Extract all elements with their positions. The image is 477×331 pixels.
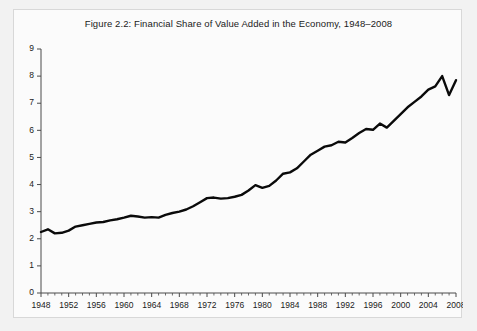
series-line-financial-share	[41, 76, 456, 233]
x-tick-label: 1992	[336, 300, 355, 310]
x-tick-label: 1996	[364, 300, 383, 310]
y-tick-label: 4	[29, 179, 34, 189]
x-tick-label: 1972	[198, 300, 217, 310]
y-tick-label: 8	[29, 70, 34, 80]
x-tick-label: 1976	[225, 300, 244, 310]
x-tick-label: 1952	[59, 300, 78, 310]
x-tick-label: 1968	[170, 300, 189, 310]
x-tick-label: 1964	[142, 300, 161, 310]
x-tick-label: 2008	[447, 300, 463, 310]
x-tick-label: 1960	[115, 300, 134, 310]
x-tick-label: 2004	[419, 300, 438, 310]
x-tick-label: 1948	[32, 300, 51, 310]
x-axis-ticks: 1948195219561960196419681972197619801984…	[32, 293, 463, 310]
x-tick-label: 2000	[391, 300, 410, 310]
x-tick-label: 1956	[87, 300, 106, 310]
x-tick-label: 1984	[281, 300, 300, 310]
x-tick-label: 1980	[253, 300, 272, 310]
figure-panel: Figure 2.2: Financial Share of Value Add…	[13, 9, 462, 318]
y-tick-label: 5	[29, 152, 34, 162]
y-tick-label: 9	[29, 43, 34, 53]
y-tick-label: 6	[29, 125, 34, 135]
line-chart: 0123456789 19481952195619601964196819721…	[14, 10, 463, 319]
y-axis-ticks: 0123456789	[29, 43, 41, 297]
y-tick-label: 2	[29, 233, 34, 243]
y-tick-label: 7	[29, 97, 34, 107]
y-tick-label: 1	[29, 260, 34, 270]
y-tick-label: 3	[29, 206, 34, 216]
y-tick-label: 0	[29, 287, 34, 297]
x-tick-label: 1988	[308, 300, 327, 310]
